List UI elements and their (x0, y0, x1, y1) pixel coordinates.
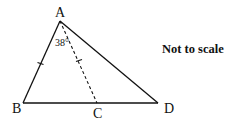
segment-ad (60, 21, 158, 103)
label-b: B (12, 101, 21, 116)
angle-label: 38° (55, 37, 69, 48)
label-a: A (55, 5, 66, 20)
triangle-diagram: A B C D 38° (0, 0, 236, 123)
label-c: C (93, 106, 102, 121)
not-to-scale-note: Not to scale (162, 42, 224, 57)
segment-ab (23, 21, 60, 103)
tick-mark-ac (76, 60, 82, 62)
segment-ac-dashed (60, 21, 97, 103)
label-d: D (164, 101, 174, 116)
